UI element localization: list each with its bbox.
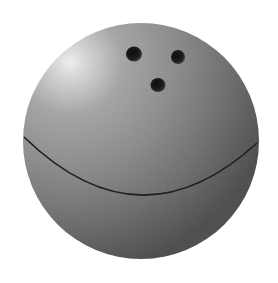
ball-texture bbox=[23, 23, 259, 259]
finger-hole-icon bbox=[126, 47, 142, 62]
thumb-hole-icon bbox=[151, 78, 166, 92]
bowling-ball-svg bbox=[0, 0, 278, 283]
bowling-ball-image bbox=[0, 0, 278, 283]
finger-hole-icon bbox=[171, 50, 185, 64]
